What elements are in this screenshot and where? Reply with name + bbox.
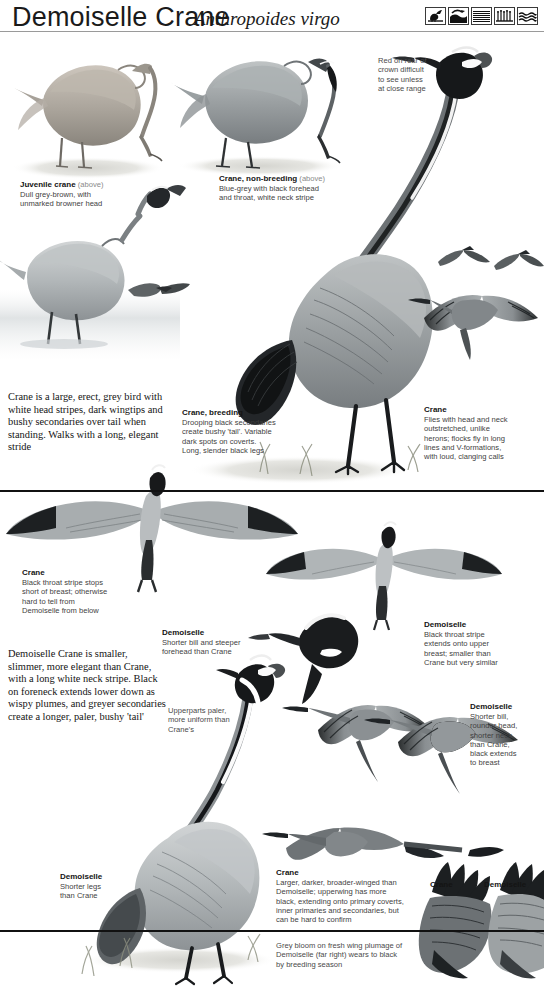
caption-crane-nonbreeding-title: Crane, non-breeding: [219, 174, 297, 183]
caption-demoiselle-head2-body: Shorter bill, rounder head, shorter neck…: [470, 712, 517, 767]
note-grey-bloom: Grey bloom on fresh wing plumage of Demo…: [276, 941, 436, 969]
caption-crane-nonbreeding-body: Blue-grey with black forehead and throat…: [219, 184, 319, 202]
caption-demoiselle-legs-title: Demoiselle: [60, 872, 102, 881]
note-upperparts: Upperparts paler, more uniform than Cran…: [168, 706, 278, 734]
caption-demoiselle-head: Demoiselle Shorter bill and steeper fore…: [162, 628, 302, 657]
bird-plate-svg: [0, 0, 544, 992]
small-flying-crane-left: [128, 283, 190, 297]
caption-demoiselle-below-body: Black throat stripe extends onto upper b…: [424, 630, 498, 667]
caption-crane-flight: Crane Flies with head and neck outstretc…: [424, 405, 542, 461]
illustration-layer: [0, 0, 544, 992]
scientific-name: Anthropoides virgo: [194, 8, 340, 30]
marsh-bird-icon: [425, 7, 446, 25]
caption-juvenile-crane-paren: (above): [78, 180, 104, 189]
juvenile-crane-illustration: [12, 64, 164, 179]
grassland-icon: [494, 7, 515, 25]
note-red-crown: Red on rear of crown difficult to see un…: [378, 56, 472, 94]
reedbed-icon: [517, 7, 538, 25]
caption-crane-below-title: Crane: [22, 568, 45, 577]
demoiselle-underwing-illustration: [266, 522, 502, 630]
caption-demoiselle-head2: Demoiselle Shorter bill, rounder head, s…: [470, 702, 542, 767]
caption-demoiselle-head-title: Demoiselle: [162, 628, 204, 637]
caption-demoiselle-head-body: Shorter bill and steeper forehead than C…: [162, 638, 241, 656]
caption-juvenile-crane-body: Dull grey-brown, with unmarked browner h…: [20, 190, 102, 208]
crane-nonbreeding-illustration: [170, 58, 342, 176]
habitat-icon-row: [425, 7, 538, 25]
caption-crane-breeding-body: Drooping black secondaries create bushy …: [182, 418, 276, 455]
caption-crane-breeding-title: Crane, breeding: [182, 408, 243, 417]
crane-wading-illustration: [0, 185, 186, 360]
header-divider: [0, 31, 544, 32]
caption-crane-below-body: Black throat stripe stops short of breas…: [22, 578, 107, 615]
paragraph-demoiselle-summary: Demoiselle Crane is smaller, slimmer, mo…: [8, 648, 166, 724]
open-water-icon: [471, 7, 492, 25]
caption-crane-upperwing-body: Larger, darker, broader-winged than Demo…: [276, 878, 404, 924]
caption-demoiselle-legs: Demoiselle Shorter legs than Crane: [60, 872, 160, 901]
caption-crane-below: Crane Black throat stripe stops short of…: [22, 568, 167, 615]
caption-crane-breeding: Crane, breeding Drooping black secondari…: [182, 408, 322, 455]
caption-demoiselle-below-title: Demoiselle: [424, 620, 466, 629]
caption-demoiselle-head2-title: Demoiselle: [470, 702, 512, 711]
page-header: Demoiselle Crane Anthropoides virgo: [0, 0, 544, 32]
crane-flight-upperwing-right: [408, 295, 538, 360]
caption-juvenile-crane-title: Juvenile crane: [20, 180, 76, 189]
caption-crane-nonbreeding: Crane, non-breeding (above) Blue-grey wi…: [219, 174, 394, 203]
crane-upperwing-single: [262, 828, 504, 860]
wetland-icon: [448, 7, 469, 25]
caption-demoiselle-below: Demoiselle Black throat stripe extends o…: [424, 620, 540, 667]
label-demoiselle-wing: Demoiselle: [484, 880, 526, 889]
caption-crane-flight-body: Flies with head and neck outstretched, u…: [424, 415, 508, 461]
field-guide-page: Demoiselle Crane Anthropoides virgo Red …: [0, 0, 544, 992]
caption-crane-flight-title: Crane: [424, 405, 447, 414]
caption-crane-upperwing-title: Crane: [276, 868, 299, 877]
caption-crane-upperwing: Crane Larger, darker, broader-winged tha…: [276, 868, 426, 924]
paragraph-crane-summary: Crane is a large, erect, grey bird with …: [8, 391, 163, 454]
caption-demoiselle-legs-body: Shorter legs than Crane: [60, 882, 101, 900]
caption-juvenile-crane: Juvenile crane (above) Dull grey-brown, …: [20, 180, 170, 209]
caption-crane-nonbreeding-paren: (above): [299, 174, 325, 183]
label-crane-wing: Crane: [430, 880, 453, 889]
crane-flock-top-right: [438, 246, 544, 270]
